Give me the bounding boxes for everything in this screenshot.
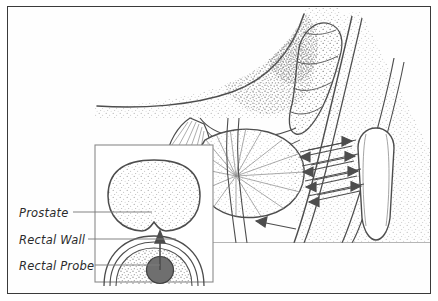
figure-canvas: Prostate Rectal Wall Rectal Probe: [0, 0, 438, 301]
illustration-artwork: [0, 0, 438, 301]
label-rectal-probe: Rectal Probe: [19, 259, 94, 273]
label-prostate: Prostate: [19, 206, 68, 220]
label-rectal-wall: Rectal Wall: [19, 233, 85, 247]
probe-direction-arrow: [256, 217, 296, 229]
